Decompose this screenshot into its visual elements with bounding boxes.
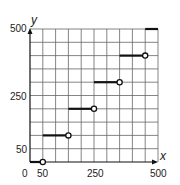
step-function-chart: y x 500 250 50 0 50 250 500	[0, 0, 180, 185]
y-tick-50: 50	[16, 144, 28, 155]
grid	[30, 29, 158, 162]
y-tick-500: 500	[10, 23, 27, 34]
open-circle-icon	[91, 106, 96, 111]
axes	[28, 28, 159, 165]
x-axis-label: x	[159, 149, 167, 163]
x-tick-50: 50	[37, 168, 49, 179]
open-circle-icon	[117, 80, 122, 85]
x-tick-250: 250	[87, 168, 104, 179]
x-tick-0: 0	[22, 168, 28, 179]
open-circle-icon	[66, 133, 71, 138]
y-tick-250: 250	[10, 91, 27, 102]
x-axis-arrow-icon	[152, 160, 158, 165]
x-tick-500: 500	[150, 168, 167, 179]
open-circle-icon	[143, 53, 148, 58]
y-axis-label: y	[30, 13, 38, 27]
open-circle-icon	[40, 159, 45, 164]
